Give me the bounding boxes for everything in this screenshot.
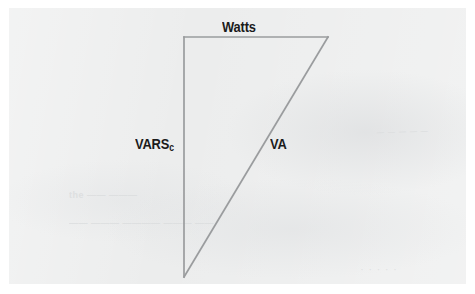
label-watts: Watts [222, 19, 256, 34]
figure-canvas: — — — — — the —— ——— —— ——— ———— ——— —— … [0, 0, 475, 294]
triangle-side-va [184, 37, 328, 277]
label-va: VA [270, 136, 287, 151]
label-vars-subscript: c [169, 142, 174, 153]
label-vars: VARSc [135, 136, 174, 151]
label-vars-main: VARS [135, 135, 169, 152]
power-triangle-drawing [0, 0, 475, 294]
